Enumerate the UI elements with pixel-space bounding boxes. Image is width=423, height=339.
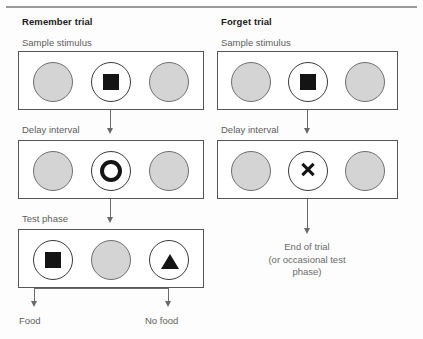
key-remember-test-left-square[interactable]: [33, 240, 73, 280]
end-of-trial-line-1: End of trial: [237, 241, 377, 254]
figure-canvas: Remember trial Sample stimulus Delay int…: [0, 0, 423, 339]
ring-icon: [100, 160, 122, 182]
stimulus-box-remember-test-phase: [18, 229, 204, 288]
arrow-remember-sample-to-delay-line: [110, 110, 111, 129]
key-forget-delay-right-gray[interactable]: [345, 151, 385, 191]
arrow-forget-sample-to-delay-line: [307, 110, 308, 129]
x-icon: [300, 161, 316, 179]
stage-label-forget-sample-stimulus: Sample stimulus: [221, 37, 291, 48]
end-of-trial-line-3: phase): [237, 266, 377, 279]
arrow-forget-delay-to-end-line: [307, 199, 308, 229]
key-remember-delay-left-gray[interactable]: [33, 151, 73, 191]
end-of-trial-text: End of trial (or occasional test phase): [237, 241, 377, 279]
stage-label-remember-test-phase: Test phase: [22, 213, 68, 224]
key-forget-sample-right-gray[interactable]: [345, 62, 385, 102]
stimulus-box-remember-delay-interval: [18, 140, 204, 199]
arrow-forget-delay-to-end-head: [304, 228, 310, 234]
end-of-trial-line-2: (or occasional test: [237, 254, 377, 267]
arrow-food-line: [34, 288, 35, 302]
arrow-remember-delay-to-test-head: [107, 217, 113, 223]
arrow-no-food-line: [168, 288, 169, 302]
outcome-branch-connector: [34, 288, 169, 289]
outcome-label-food: Food: [19, 315, 41, 326]
stage-label-forget-delay-interval: Delay interval: [221, 124, 279, 135]
top-rule-divider: [6, 6, 417, 8]
arrow-no-food-head: [165, 301, 171, 307]
arrow-food-head: [31, 301, 37, 307]
key-forget-sample-left-gray[interactable]: [231, 62, 271, 102]
triangle-icon: [161, 254, 179, 269]
key-forget-sample-center-square[interactable]: [288, 62, 328, 102]
stage-label-remember-sample-stimulus: Sample stimulus: [22, 37, 92, 48]
square-icon: [45, 252, 61, 268]
stimulus-box-forget-sample-stimulus: [217, 51, 398, 110]
square-icon: [103, 74, 119, 90]
key-remember-test-center-gray[interactable]: [91, 240, 131, 280]
stimulus-box-remember-sample-stimulus: [18, 51, 204, 110]
key-remember-sample-left-gray[interactable]: [33, 62, 73, 102]
key-forget-delay-left-gray[interactable]: [231, 151, 271, 191]
stimulus-box-forget-delay-interval: [217, 140, 398, 199]
panel-title-remember: Remember trial: [22, 16, 93, 27]
stage-label-remember-delay-interval: Delay interval: [22, 124, 80, 135]
panel-title-forget: Forget trial: [221, 16, 272, 27]
key-remember-sample-right-gray[interactable]: [149, 62, 189, 102]
key-remember-test-right-triangle[interactable]: [149, 240, 189, 280]
outcome-label-no-food: No food: [145, 315, 178, 326]
arrow-remember-sample-to-delay-head: [107, 128, 113, 134]
key-remember-delay-center-ring[interactable]: [91, 151, 131, 191]
arrow-remember-delay-to-test-line: [110, 199, 111, 218]
key-remember-delay-right-gray[interactable]: [149, 151, 189, 191]
square-icon: [300, 74, 316, 90]
arrow-forget-sample-to-delay-head: [304, 128, 310, 134]
key-remember-sample-center-square[interactable]: [91, 62, 131, 102]
key-forget-delay-center-x[interactable]: [288, 151, 328, 191]
